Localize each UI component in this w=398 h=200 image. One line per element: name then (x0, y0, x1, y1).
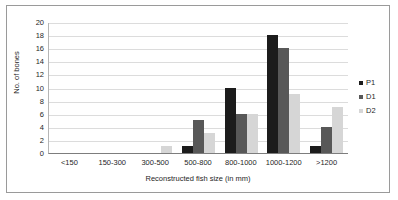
bar-d2 (247, 114, 258, 153)
bar-d2 (161, 146, 172, 153)
figure-frame: No. of bones 02468101214161820 <150150-3… (6, 5, 390, 193)
legend-swatch-icon (359, 109, 363, 113)
bar-p1 (182, 146, 193, 153)
x-axis-title: Reconstructed fish size (in mm) (48, 174, 348, 183)
legend-label: P1 (366, 79, 375, 87)
y-axis-tick-label: 20 (13, 19, 44, 27)
legend-swatch-icon (359, 95, 363, 99)
bar-groups (49, 23, 348, 153)
bar-group (263, 23, 306, 153)
legend-swatch-icon (359, 81, 363, 85)
bar-group (305, 23, 348, 153)
chart-legend: P1D1D2 (359, 76, 393, 118)
y-axis-tick-label: 2 (13, 137, 44, 145)
legend-label: D2 (366, 107, 376, 115)
bar-group (177, 23, 220, 153)
bar-d1 (278, 48, 289, 153)
legend-item-p1: P1 (359, 76, 393, 90)
x-axis-tick-label: 300-500 (134, 158, 177, 167)
bar-d1 (321, 127, 332, 153)
x-axis-tick-labels: <150150-300300-500500-800800-10001000-12… (48, 158, 348, 167)
bar-p1 (267, 35, 278, 153)
x-axis-tick-label: >1200 (305, 158, 348, 167)
y-axis-tick-label: 6 (13, 111, 44, 119)
x-axis-tick-label: 1000-1200 (262, 158, 305, 167)
bar-chart: No. of bones 02468101214161820 <150150-3… (7, 6, 389, 192)
y-axis-tick-label: 4 (13, 124, 44, 132)
bar-p1 (225, 88, 236, 154)
bar-d1 (193, 120, 204, 153)
plot-area (48, 23, 348, 154)
x-axis-tick-label: <150 (48, 158, 91, 167)
bar-d2 (204, 133, 215, 153)
bar-d2 (289, 94, 300, 153)
y-axis-tick-label: 0 (13, 150, 44, 158)
x-axis-tick-label: 500-800 (177, 158, 220, 167)
bar-group (92, 23, 135, 153)
bar-group (49, 23, 92, 153)
x-axis-tick-label: 150-300 (91, 158, 134, 167)
x-axis-tick-label: 800-1000 (219, 158, 262, 167)
y-axis-title: No. of bones (12, 38, 21, 108)
bar-group (134, 23, 177, 153)
bar-group (220, 23, 263, 153)
bar-d2 (332, 107, 343, 153)
bar-p1 (310, 146, 321, 153)
legend-item-d2: D2 (359, 104, 393, 118)
legend-item-d1: D1 (359, 90, 393, 104)
bar-d1 (236, 114, 247, 153)
legend-label: D1 (366, 93, 376, 101)
